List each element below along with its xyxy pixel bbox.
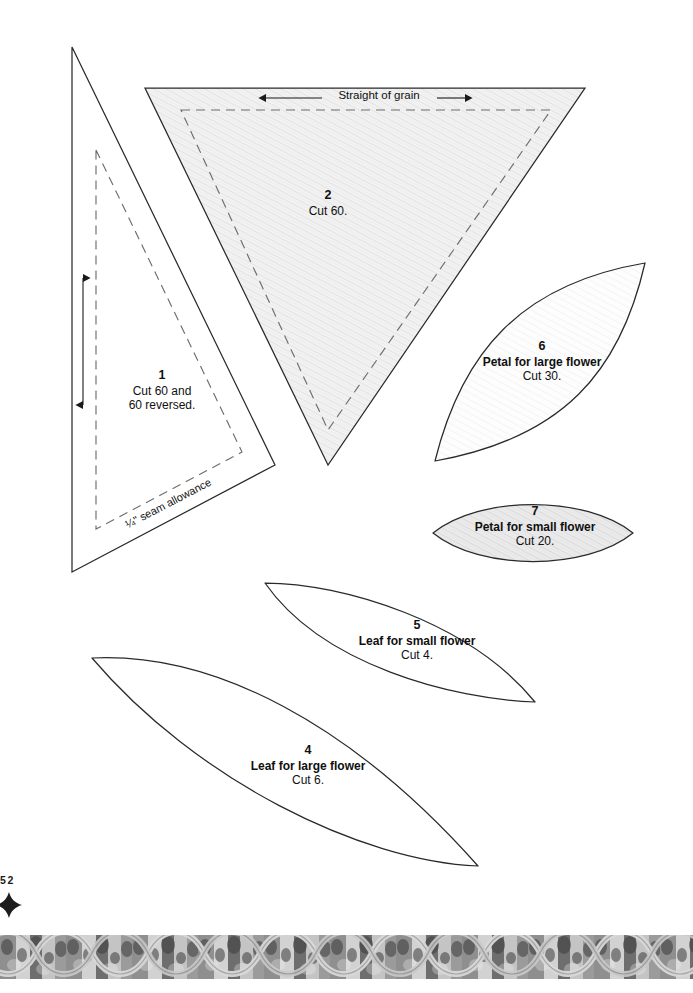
pattern-template-drawing (0, 0, 693, 993)
folio: 52 (0, 874, 40, 918)
piece-6-shape (435, 263, 645, 461)
piece-4-shape (92, 658, 478, 866)
grain-label-piece-2: Straight of grain (320, 89, 438, 101)
piece-7-shape (433, 505, 633, 562)
page-number: 52 (0, 874, 15, 886)
piece-5-shape (265, 583, 535, 702)
pattern-sheet-page: Straight of grain 1 Cut 60 and 60 revers… (0, 0, 693, 993)
decorative-bottom-border (0, 931, 693, 993)
diamond-ornament-icon (0, 890, 24, 920)
